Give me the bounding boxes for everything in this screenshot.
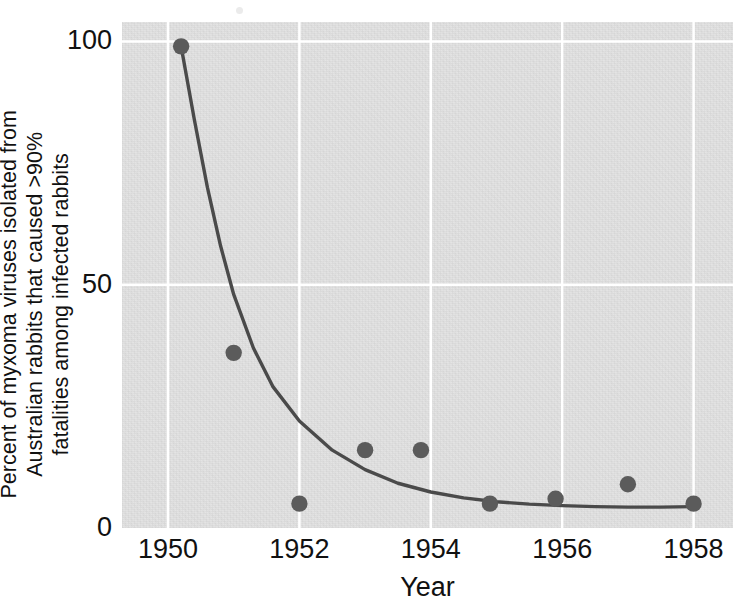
y-axis-title: Percent of myxoma viruses isolated from … (0, 44, 74, 564)
plot-canvas (122, 22, 733, 528)
plot-area (122, 22, 733, 528)
data-point (547, 491, 563, 507)
data-point (482, 495, 498, 511)
data-point (413, 442, 429, 458)
x-axis-tick-label: 1950 (138, 536, 198, 563)
data-point (173, 38, 189, 54)
x-axis-tick-label: 1954 (401, 536, 461, 563)
x-axis-tick-label: 1956 (532, 536, 592, 563)
chart-figure: 050100 19501952195419561958 Year Percent… (0, 0, 733, 604)
x-axis-tick-label: 1952 (269, 536, 329, 563)
x-axis-title: Year (122, 574, 733, 601)
data-point (620, 476, 636, 492)
data-point (291, 495, 307, 511)
fitted-curve (181, 46, 693, 507)
data-point (357, 442, 373, 458)
x-axis-tick-label: 1958 (664, 536, 724, 563)
x-axis-tick-labels: 19501952195419561958 (0, 536, 733, 570)
data-point (225, 345, 241, 361)
y-axis-tick-label: 50 (82, 271, 112, 298)
data-point (685, 495, 701, 511)
scan-artifact-speck (236, 7, 243, 14)
